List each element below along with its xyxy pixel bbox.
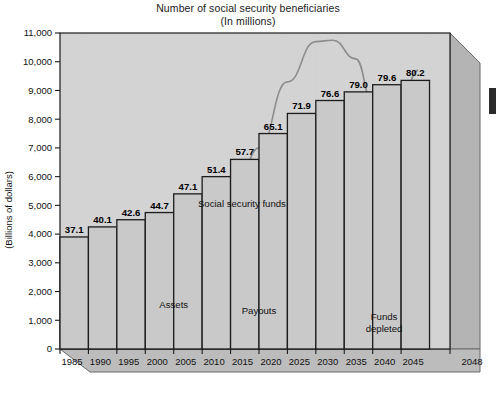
x-axis-tick-label: 1995	[118, 356, 139, 367]
bar-value-label: 57.7	[235, 146, 254, 157]
y-axis-tick-label: 9,000	[28, 85, 52, 96]
x-axis-tick-label: 2015	[232, 356, 253, 367]
x-axis-tick-label: 2005	[175, 356, 196, 367]
annotation: Funds	[371, 311, 398, 322]
y-axis-tick-label: 6,000	[28, 171, 52, 182]
y-axis-tick-label: 10,000	[23, 56, 52, 67]
x-axis-tick-label: 2020	[260, 356, 281, 367]
bar-value-label: 79.6	[378, 72, 397, 83]
bar-value-label: 42.6	[122, 207, 141, 218]
annotation: depleted	[366, 323, 403, 334]
bar-value-label: 40.1	[93, 214, 112, 225]
x-axis-tick-label: 2048	[461, 356, 482, 367]
chart-canvas: 01,0002,0003,0004,0005,0006,0007,0008,00…	[0, 0, 496, 393]
bar-value-label: 44.7	[150, 200, 169, 211]
bar-value-label: 37.1	[65, 224, 84, 235]
y-axis-tick-label: 5,000	[28, 200, 52, 211]
x-axis-tick-label: 2030	[317, 356, 338, 367]
y-axis-tick-label: 8,000	[28, 114, 52, 125]
bar-value-label: 71.9	[292, 100, 311, 111]
y-axis: 01,0002,0003,0004,0005,0006,0007,0008,00…	[23, 27, 60, 354]
chart-figure: Number of social security beneficiaries …	[0, 0, 496, 393]
x-axis-tick-label: 2040	[374, 356, 395, 367]
bar	[88, 227, 116, 349]
x-axis-tick-label: 1985	[61, 356, 82, 367]
bar	[174, 194, 202, 349]
right-edge-marker	[489, 88, 496, 114]
bar-value-label: 76.6	[321, 88, 340, 99]
bar	[60, 237, 88, 349]
bar	[373, 85, 401, 349]
bar	[287, 113, 315, 349]
y-axis-tick-label: 11,000	[24, 27, 52, 38]
annotation: Assets	[159, 299, 188, 310]
annotation: Social security funds	[198, 198, 286, 209]
y-axis-tick-label: 3,000	[28, 257, 52, 268]
plot-side-panel	[450, 33, 480, 349]
bar	[231, 159, 259, 349]
y-axis-tick-label: 2,000	[28, 286, 52, 297]
y-axis-tick-label: 7,000	[28, 142, 52, 153]
y-axis-title: (Billions of dollars)	[3, 171, 14, 249]
bar	[117, 220, 145, 349]
bar	[401, 80, 429, 349]
y-axis-tick-label: 0	[47, 343, 52, 354]
x-axis-tick-label: 2000	[147, 356, 168, 367]
bar	[316, 101, 344, 349]
bar	[344, 92, 372, 349]
bar-value-label: 47.1	[179, 181, 198, 192]
x-axis-tick-label: 2035	[346, 356, 367, 367]
bar-value-label: 80.2	[406, 67, 425, 78]
bar-value-label: 79.0	[349, 79, 368, 90]
y-axis-tick-label: 4,000	[28, 228, 52, 239]
bar	[259, 134, 287, 349]
bar	[145, 213, 173, 349]
x-axis-tick-label: 2025	[289, 356, 310, 367]
x-axis-tick-label: 1990	[90, 356, 111, 367]
bar-value-label: 51.4	[207, 164, 226, 175]
annotation: Payouts	[242, 305, 277, 316]
y-axis-tick-label: 1,000	[28, 315, 52, 326]
x-axis-tick-label: 2010	[204, 356, 225, 367]
bar-value-label: 65.1	[264, 121, 283, 132]
x-axis-tick-label: 2045	[403, 356, 424, 367]
